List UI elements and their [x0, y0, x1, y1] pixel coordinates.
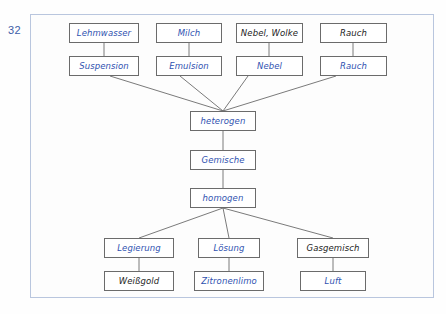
node-milch: Milch: [156, 23, 222, 43]
node-rauch-mid: Rauch: [320, 56, 387, 76]
worksheet-page: 32 LehmwasserMilchNebel, WolkeRauchSuspe…: [0, 0, 446, 314]
node-luft: Luft: [300, 271, 366, 291]
node-emulsion: Emulsion: [156, 56, 222, 76]
node-weissgold: Weißgold: [104, 271, 174, 291]
node-nebel: Nebel: [236, 56, 303, 76]
node-nebel-wolke: Nebel, Wolke: [236, 23, 303, 43]
node-zitronenlimo: Zitronenlimo: [194, 271, 264, 291]
node-suspension: Suspension: [69, 56, 139, 76]
node-loesung: Lösung: [198, 238, 260, 258]
node-rauch-top: Rauch: [320, 23, 387, 43]
node-heterogen: heterogen: [190, 111, 256, 131]
node-homogen: homogen: [190, 188, 256, 208]
node-gemische: Gemische: [190, 150, 256, 170]
node-lehmwasser: Lehmwasser: [69, 23, 139, 43]
page-number: 32: [8, 24, 21, 36]
node-gasgemisch: Gasgemisch: [297, 238, 369, 258]
node-legierung: Legierung: [104, 238, 174, 258]
